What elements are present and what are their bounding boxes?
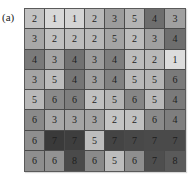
grid-cell: 4 — [165, 90, 185, 110]
grid-cell: 3 — [25, 29, 45, 49]
grid-cell: 6 — [25, 110, 45, 130]
grid-cell: 3 — [85, 70, 105, 90]
grid-cell: 6 — [45, 90, 65, 110]
grid-cell: 7 — [45, 131, 65, 151]
grid-cell: 8 — [65, 151, 85, 171]
grid-cell: 6 — [165, 70, 185, 90]
grid-cell: 5 — [125, 9, 145, 29]
grid-cell: 6 — [125, 151, 145, 171]
grid-cell: 6 — [145, 110, 165, 130]
grid-cell: 7 — [145, 131, 165, 151]
grid-cell: 4 — [65, 50, 85, 70]
grid-cell: 1 — [65, 9, 85, 29]
grid-cell: 5 — [85, 131, 105, 151]
grid-cell: 4 — [165, 29, 185, 49]
grid-cell: 5 — [105, 90, 125, 110]
grid-cell: 6 — [65, 90, 85, 110]
grid-cell: 7 — [105, 131, 125, 151]
grid-cell: 5 — [105, 29, 125, 49]
grid-cell: 6 — [25, 151, 45, 171]
grid-cell: 5 — [45, 70, 65, 90]
grid-cell: 5 — [125, 70, 145, 90]
grid-cell: 4 — [145, 9, 165, 29]
grid-cell: 3 — [105, 9, 125, 29]
grid-cell: 2 — [125, 50, 145, 70]
grid-cell: 2 — [85, 9, 105, 29]
grid-cell: 5 — [145, 70, 165, 90]
grid-cell: 4 — [65, 70, 85, 90]
grid-cell: 2 — [65, 29, 85, 49]
grid-cell: 3 — [85, 110, 105, 130]
grid-cell: 2 — [85, 90, 105, 110]
grid-cell: 3 — [25, 70, 45, 90]
grid-cell: 2 — [25, 9, 45, 29]
grid-cell: 2 — [145, 50, 165, 70]
grid-cell: 6 — [25, 131, 45, 151]
grid-cell: 5 — [145, 90, 165, 110]
grid-cell: 4 — [105, 50, 125, 70]
grid-cell: 2 — [45, 29, 65, 49]
grid-cell: 3 — [65, 110, 85, 130]
grid-cell: 3 — [45, 110, 65, 130]
grid-cell: 4 — [105, 70, 125, 90]
grid-cell: 4 — [25, 50, 45, 70]
grid-cell: 5 — [25, 90, 45, 110]
grid-cell: 1 — [165, 50, 185, 70]
grid-cell: 3 — [145, 29, 165, 49]
grid-cell: 7 — [145, 151, 165, 171]
grid-cell: 3 — [45, 50, 65, 70]
grid-cell: 7 — [165, 131, 185, 151]
grid-cell: 4 — [165, 110, 185, 130]
grid-cell: 6 — [125, 90, 145, 110]
grid-cell: 2 — [105, 110, 125, 130]
grid-cell: 6 — [85, 151, 105, 171]
grid-cell: 7 — [125, 131, 145, 151]
panel-label: (a) — [2, 11, 14, 23]
grid-cell: 1 — [45, 9, 65, 29]
grid-cell: 5 — [105, 151, 125, 171]
grid-cell: 3 — [165, 9, 185, 29]
grid-cell: 6 — [45, 151, 65, 171]
grid-cell: 2 — [125, 29, 145, 49]
value-grid: 2112354332225234434342213543455656625654… — [24, 8, 186, 172]
grid-cell: 2 — [85, 29, 105, 49]
grid-cell: 3 — [85, 50, 105, 70]
grid-cell: 2 — [125, 110, 145, 130]
grid-cell: 8 — [165, 151, 185, 171]
grid-cell: 7 — [65, 131, 85, 151]
